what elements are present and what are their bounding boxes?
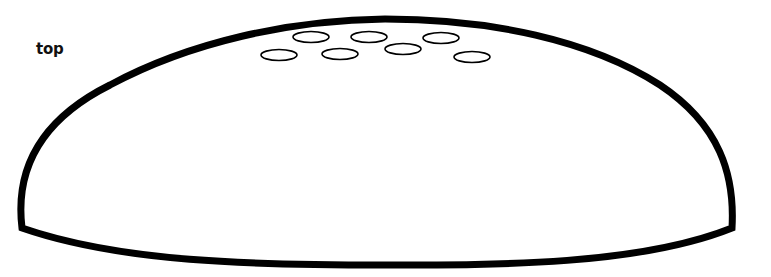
- hole-6: [385, 44, 421, 55]
- dome-outline: [21, 19, 732, 265]
- hole-1: [293, 32, 329, 43]
- dome-figure: [0, 0, 771, 277]
- hole-2: [351, 32, 387, 43]
- hole-4: [261, 50, 297, 61]
- hole-5: [322, 49, 358, 60]
- hole-7: [454, 52, 490, 63]
- diagram-canvas: top: [0, 0, 771, 277]
- top-label: top: [36, 40, 64, 58]
- hole-3: [423, 33, 459, 44]
